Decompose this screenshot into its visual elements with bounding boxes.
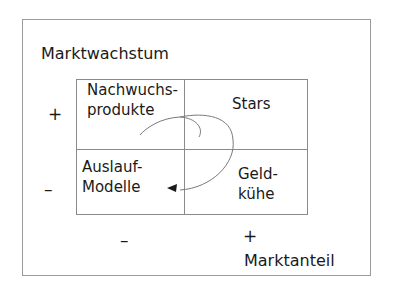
x-axis-high-sign: + <box>243 228 257 245</box>
x-axis-low-sign: – <box>120 232 129 249</box>
cycle-arrow-icon <box>0 0 394 291</box>
x-axis-label: Marktanteil <box>244 253 335 269</box>
